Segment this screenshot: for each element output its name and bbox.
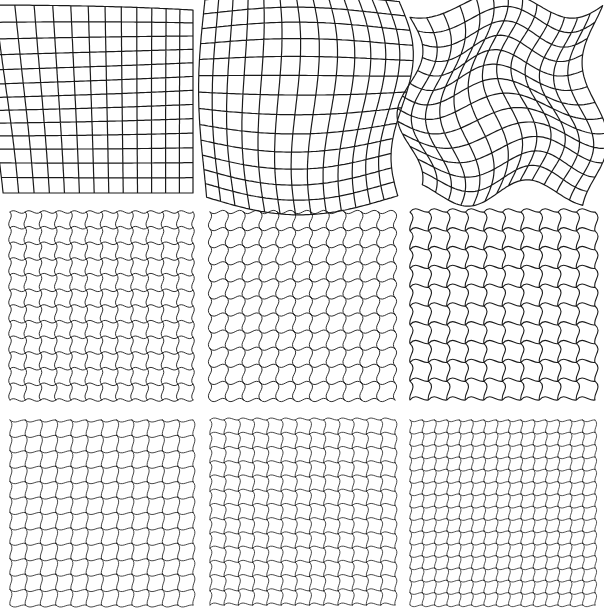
- panel-1-2: [210, 5, 395, 193]
- panel-2-3: [410, 212, 595, 400]
- panel-3-1: [10, 420, 193, 605]
- warped-grid-graphic: [210, 212, 395, 400]
- panel-3-3: [410, 420, 595, 605]
- grid-lines: [410, 209, 598, 400]
- panel-2-2: [210, 212, 395, 400]
- warped-grid-graphic: [410, 212, 595, 400]
- grid-lines: [397, 0, 604, 206]
- grid-lines: [410, 420, 597, 607]
- warped-grid-graphic: [410, 420, 595, 605]
- warped-grid-graphic: [10, 5, 193, 193]
- panel-2-1: [10, 212, 193, 400]
- panel-3-2: [210, 420, 395, 605]
- warped-grid-graphic: [210, 5, 395, 193]
- grid-lines: [9, 211, 195, 402]
- panel-1-3: [410, 5, 595, 193]
- grid-lines: [208, 210, 397, 402]
- warped-grid-graphic: [10, 212, 193, 400]
- warped-grid-graphic: [10, 420, 193, 605]
- grid-lines: [210, 418, 397, 605]
- grid-lines: [199, 0, 414, 215]
- grid-lines: [0, 5, 193, 193]
- warped-grid-graphic: [410, 5, 595, 193]
- panel-1-1: [10, 5, 193, 193]
- warped-grid-graphic: [210, 420, 395, 605]
- grid-lines: [10, 420, 195, 607]
